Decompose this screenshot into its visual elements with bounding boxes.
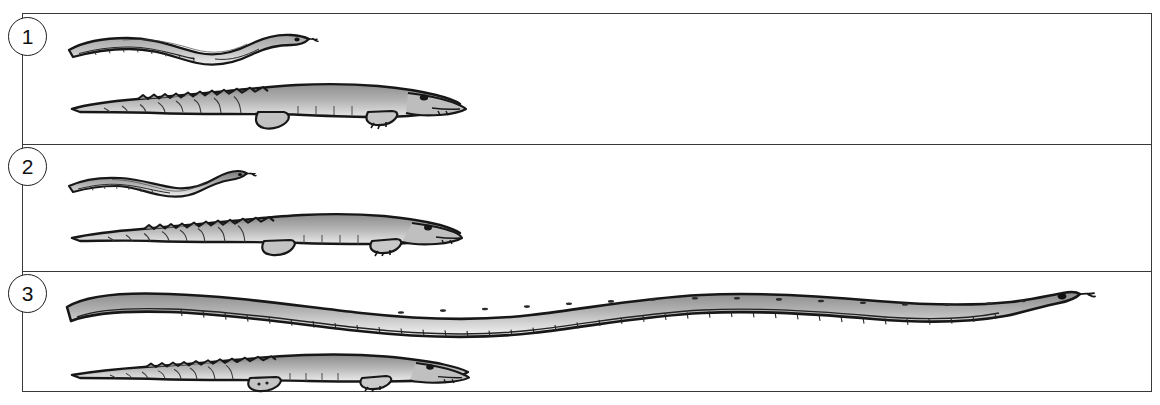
snake-panel-2	[66, 166, 256, 194]
panel-number-1: 1	[8, 17, 47, 56]
figure-frame	[22, 13, 1152, 392]
panel-3	[23, 271, 1151, 393]
snake-panel-1	[65, 28, 315, 60]
panel-number-3-label: 3	[22, 283, 34, 304]
panel-1	[23, 14, 1151, 144]
panel-number-1-label: 1	[22, 26, 34, 47]
panel-number-2: 2	[8, 147, 47, 186]
panel-number-2-label: 2	[22, 156, 34, 177]
snake-panel-3	[61, 281, 1091, 337]
crocodile-panel-1	[68, 76, 468, 132]
crocodile-panel-2	[68, 202, 462, 256]
comparative-size-figure: 1 2 3	[0, 0, 1160, 405]
crocodile-panel-3	[68, 345, 472, 393]
panel-number-3: 3	[8, 274, 47, 313]
panel-2	[23, 144, 1151, 271]
